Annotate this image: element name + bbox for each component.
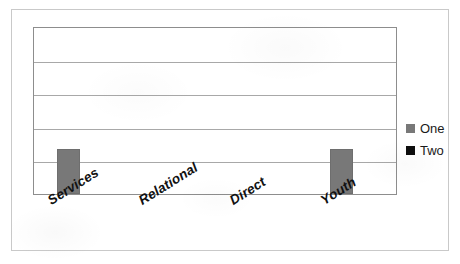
legend-label-one: One	[420, 122, 445, 135]
chart-outer-frame: ServicesRelationalDirectYouth OneTwo	[11, 9, 449, 251]
x-axis-labels: ServicesRelationalDirectYouth	[33, 195, 397, 255]
legend-label-two: Two	[420, 144, 444, 157]
legend-swatch-two	[406, 146, 415, 155]
legend-entry-one[interactable]: One	[406, 118, 460, 138]
legend-swatch-one	[406, 124, 415, 133]
chart-screenshot: ServicesRelationalDirectYouth OneTwo	[0, 0, 460, 264]
chart-legend: OneTwo	[406, 118, 460, 162]
legend-entry-two[interactable]: Two	[406, 140, 460, 160]
